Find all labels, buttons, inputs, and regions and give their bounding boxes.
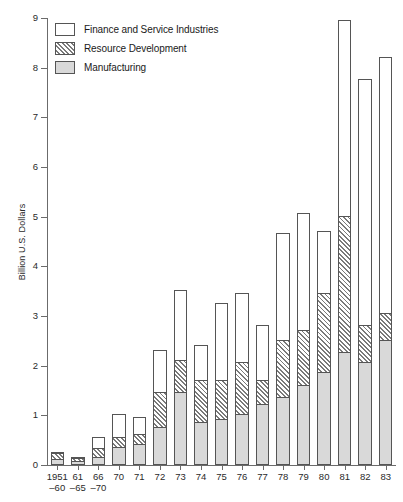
legend-swatch-hatch — [55, 42, 75, 55]
bar-segment-resource_development — [358, 325, 372, 363]
bar-segment-manufacturing — [317, 372, 331, 465]
x-axis-tick — [139, 465, 140, 470]
plot-area — [47, 18, 396, 465]
bar-70 — [112, 18, 126, 465]
bar-segment-resource_development — [215, 380, 229, 421]
bar-6670 — [92, 18, 106, 465]
y-axis-tick-label: 1 — [6, 410, 38, 420]
bar-74 — [194, 18, 208, 465]
x-axis-tick — [242, 465, 243, 470]
bar-segment-manufacturing — [153, 427, 167, 465]
y-axis-tick-label: 0 — [6, 460, 38, 470]
legend-swatch-white — [55, 23, 75, 36]
x-axis-tick — [263, 465, 264, 470]
chart-legend: Finance and Service IndustriesResource D… — [55, 20, 285, 77]
bar-segment-manufacturing — [174, 392, 188, 465]
bar-segment-finance_service — [317, 231, 331, 294]
bar-segment-finance_service — [297, 213, 311, 331]
x-axis-tick — [180, 465, 181, 470]
x-axis-tick — [345, 465, 346, 470]
y-axis-tick — [41, 465, 47, 466]
x-axis-tick — [98, 465, 99, 470]
x-axis-tick-label-line2: –70 — [81, 482, 115, 493]
legend-label: Manufacturing — [84, 62, 146, 73]
legend-item: Resource Development — [55, 39, 285, 58]
bar-segment-finance_service — [276, 233, 290, 341]
bar-73 — [174, 18, 188, 465]
bar-80 — [317, 18, 331, 465]
bar-segment-resource_development — [92, 448, 106, 458]
bar-segment-manufacturing — [276, 397, 290, 465]
bar-83 — [379, 18, 393, 465]
y-axis-tick — [41, 217, 47, 218]
bar-segment-finance_service — [235, 293, 249, 364]
legend-swatch-gray — [55, 61, 75, 74]
bar-75 — [215, 18, 229, 465]
y-axis-tick — [41, 266, 47, 267]
bar-segment-manufacturing — [379, 340, 393, 465]
bar-segment-resource_development — [194, 380, 208, 423]
legend-label: Resource Development — [84, 43, 187, 54]
y-axis-tick — [41, 117, 47, 118]
x-axis-tick — [283, 465, 284, 470]
bar-segment-manufacturing — [112, 447, 126, 465]
bar-81 — [338, 18, 352, 465]
y-axis-tick — [41, 415, 47, 416]
bar-segment-finance_service — [338, 20, 352, 217]
bar-segment-finance_service — [153, 350, 167, 393]
bar-segment-finance_service — [194, 345, 208, 381]
x-axis-tick — [78, 465, 79, 470]
bar-segment-resource_development — [317, 293, 331, 373]
y-axis-tick — [41, 68, 47, 69]
bar-6165 — [71, 18, 85, 465]
y-axis-tick — [41, 167, 47, 168]
bar-segment-resource_development — [174, 360, 188, 393]
y-axis-tick-label: 8 — [6, 63, 38, 73]
bar-segment-manufacturing — [133, 444, 147, 465]
bar-76 — [235, 18, 249, 465]
y-axis-tick-label: 4 — [6, 261, 38, 271]
bar-segment-resource_development — [256, 380, 270, 406]
bar-77 — [256, 18, 270, 465]
x-axis-tick — [386, 465, 387, 470]
bar-segment-finance_service — [358, 79, 372, 326]
bar-segment-manufacturing — [92, 457, 106, 465]
y-axis-tick-label: 6 — [6, 162, 38, 172]
bar-chart: Billion U.S. Dollars 0123456789 1951–606… — [0, 0, 403, 502]
x-axis-tick — [365, 465, 366, 470]
bar-segment-resource_development — [379, 313, 393, 341]
bar-segment-manufacturing — [358, 362, 372, 465]
x-axis-tick — [222, 465, 223, 470]
x-axis-tick-label: 83 — [369, 471, 403, 482]
x-axis-tick — [119, 465, 120, 470]
bar-72 — [153, 18, 167, 465]
bar-82 — [358, 18, 372, 465]
x-axis-tick-label-line1: 83 — [369, 471, 403, 482]
bar-segment-finance_service — [174, 290, 188, 361]
legend-item: Manufacturing — [55, 58, 285, 77]
y-axis-tick — [41, 366, 47, 367]
bar-79 — [297, 18, 311, 465]
y-axis-tick-label: 3 — [6, 311, 38, 321]
bar-segment-finance_service — [256, 325, 270, 381]
bar-segment-resource_development — [133, 434, 147, 445]
bar-segment-resource_development — [51, 453, 65, 460]
bar-segment-resource_development — [297, 330, 311, 386]
y-axis-labels: 0123456789 — [0, 0, 38, 502]
bar-segment-resource_development — [153, 392, 167, 428]
x-axis-tick — [201, 465, 202, 470]
y-axis-tick — [41, 18, 47, 19]
x-axis-tick — [57, 465, 58, 470]
bar-segment-manufacturing — [256, 404, 270, 465]
bar-segment-finance_service — [92, 437, 106, 449]
bar-segment-manufacturing — [215, 419, 229, 465]
bar-segment-resource_development — [338, 216, 352, 354]
bar-segment-finance_service — [51, 452, 65, 454]
bar-195160 — [51, 18, 65, 465]
bar-segment-finance_service — [215, 303, 229, 381]
x-axis-tick — [324, 465, 325, 470]
y-axis-tick — [41, 316, 47, 317]
legend-label: Finance and Service Industries — [84, 24, 218, 35]
y-axis-tick-label: 7 — [6, 112, 38, 122]
bar-segment-finance_service — [71, 457, 85, 459]
